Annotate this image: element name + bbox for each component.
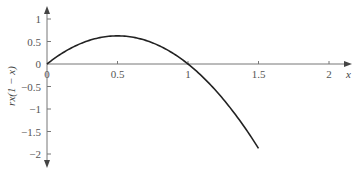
x-tick-label: 0 bbox=[44, 68, 50, 80]
ticks: 00.511.5210.50−0.5−1−1.5−2 bbox=[21, 13, 332, 160]
x-axis-label: x bbox=[345, 68, 351, 80]
x-tick-label: 1 bbox=[185, 68, 191, 80]
y-tick-label: −2 bbox=[29, 148, 41, 160]
y-tick-label: 1 bbox=[36, 13, 42, 25]
curve-rx-1-minus-x bbox=[47, 36, 259, 149]
function-plot: 00.511.5210.50−0.5−1−1.5−2 x rx(1 − x) bbox=[0, 0, 362, 183]
y-tick-label: 0 bbox=[36, 58, 42, 70]
y-axis-down-arrow-icon bbox=[44, 160, 50, 168]
y-tick-label: −1 bbox=[29, 103, 41, 115]
x-tick-label: 0.5 bbox=[111, 68, 125, 80]
y-tick-label: −0.5 bbox=[21, 81, 41, 93]
y-tick-label: 0.5 bbox=[27, 36, 41, 48]
y-axis-label: rx(1 − x) bbox=[5, 66, 18, 106]
x-axis-arrow-icon bbox=[344, 61, 352, 67]
y-axis-up-arrow-icon bbox=[44, 6, 50, 14]
x-tick-label: 2 bbox=[326, 68, 332, 80]
axes bbox=[44, 6, 352, 168]
y-tick-label: −1.5 bbox=[21, 126, 41, 138]
x-tick-label: 1.5 bbox=[252, 68, 266, 80]
